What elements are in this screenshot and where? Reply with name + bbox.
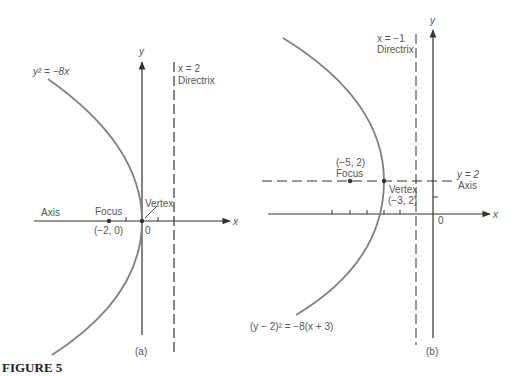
panel-label-b: (b) [426, 346, 438, 357]
vertex-coords-b: (−3, 2) [388, 195, 417, 206]
figure-caption: FIGURE 5 [2, 360, 63, 375]
vertex-label-b: Vertex [389, 184, 417, 195]
origin-label-b: 0 [438, 215, 444, 226]
x-axis-label-a: x [232, 216, 239, 227]
figure-canvas: y² = −8x y x x = 2 Directrix Axis Focus … [0, 0, 522, 376]
directrix-eq-a: x = 2 [178, 63, 200, 74]
y-axis-label-a: y [138, 46, 145, 57]
panel-a: y² = −8x y x x = 2 Directrix Axis Focus … [32, 46, 239, 357]
equation-b: (y − 2)² = −8(x + 3) [250, 321, 333, 332]
vertex-point-a [140, 219, 144, 223]
y-axis-label-b: y [429, 15, 436, 26]
parabola-a [48, 79, 142, 355]
axis-label-b: Axis [458, 180, 477, 191]
origin-label-a: 0 [145, 225, 151, 236]
panel-b: y x x = −1 Directrix (−5, 2) Focus y = 2… [250, 15, 499, 357]
x-axis-label-b: x [492, 209, 499, 220]
directrix-eq-b: x = −1 [377, 33, 405, 44]
focus-point-b [348, 179, 352, 183]
axis-eq-b: y = 2 [456, 169, 479, 180]
equation-a: y² = −8x [32, 66, 70, 77]
vertex-point-b [382, 179, 386, 183]
parabola-b [283, 38, 384, 315]
focus-coords-b: (−5, 2) [336, 157, 365, 168]
panel-label-a: (a) [135, 346, 147, 357]
directrix-label-a: Directrix [178, 75, 215, 86]
focus-label-a: Focus [95, 206, 122, 217]
focus-point-a [107, 219, 111, 223]
directrix-label-b: Directrix [377, 44, 414, 55]
focus-coords-a: (−2, 0) [94, 225, 123, 236]
focus-label-b: Focus [336, 168, 363, 179]
axis-label-a: Axis [41, 207, 60, 218]
vertex-label-a: Vertex [145, 198, 173, 209]
